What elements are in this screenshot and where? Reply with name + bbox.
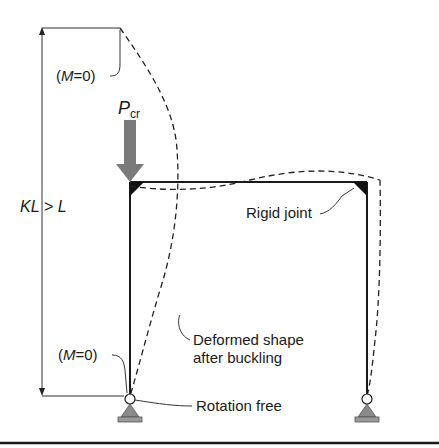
effective-length-label: KL > L: [20, 198, 67, 215]
buckled-frame-diagram: (M=0) Pcr KL > L Rigid joint Deformed sh…: [0, 0, 439, 448]
bottom-moment-label: (M=0): [58, 346, 98, 363]
left-rigid-joint-icon: [130, 182, 144, 196]
left-support-base: [118, 417, 142, 422]
right-support-triangle-icon: [358, 404, 376, 417]
critical-load-arrow: [116, 120, 144, 182]
rigid-joint-label: Rigid joint: [246, 204, 313, 221]
bottom-moment-leader: [112, 355, 127, 393]
rotation-free-label: Rotation free: [196, 397, 282, 414]
right-hinge-icon: [362, 394, 372, 404]
left-support-triangle-icon: [121, 404, 139, 417]
right-support-base: [355, 417, 379, 422]
left-column-deformed: [120, 28, 178, 396]
load-arrow-shaft: [124, 120, 136, 166]
arrowhead-down-icon: [39, 388, 45, 396]
critical-load-label: Pcr: [118, 98, 140, 121]
right-pin-support: [355, 394, 379, 422]
top-moment-label: (M=0): [56, 67, 96, 84]
rotation-free-leader: [135, 400, 192, 406]
load-arrow-head-icon: [116, 164, 144, 182]
deformed-shape-leader: [179, 315, 190, 340]
right-column-deformed: [367, 180, 380, 396]
right-rigid-joint-icon: [353, 182, 367, 196]
left-hinge-icon: [125, 394, 135, 404]
left-pin-support: [118, 394, 142, 422]
deformed-shape-label-line2: after buckling: [193, 349, 282, 366]
beam-deformed: [130, 171, 380, 189]
rigid-joint-leader: [320, 188, 354, 214]
top-moment-leader: [110, 30, 120, 76]
deformed-shape-label-line1: Deformed shape: [193, 331, 304, 348]
